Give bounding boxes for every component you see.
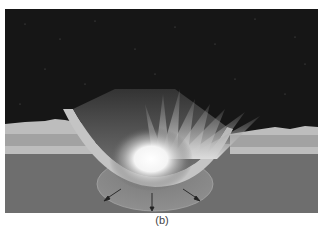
crater-svg	[5, 9, 318, 213]
impact-crater-illustration	[5, 9, 318, 213]
impact-flash	[109, 127, 193, 191]
figure-caption: (b)	[0, 214, 324, 226]
